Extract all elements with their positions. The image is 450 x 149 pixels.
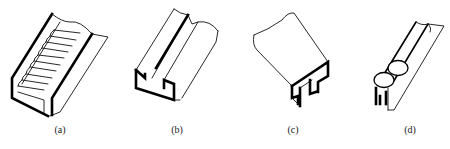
- profile-d-ball-rail: [374, 22, 444, 110]
- profile-c-tslot-block: [253, 13, 328, 106]
- caption-a: (a): [45, 124, 75, 135]
- caption-b: (b): [162, 124, 192, 135]
- ball-upper: [388, 61, 408, 76]
- caption-c: (c): [278, 124, 308, 135]
- ball-lower: [374, 73, 394, 88]
- profile-a-ribbed-trough: [12, 14, 108, 116]
- guide-profiles-figure: (a) (b) (c) (d): [0, 0, 450, 149]
- profile-b-slot-channel: [136, 9, 218, 100]
- caption-d: (d): [395, 124, 425, 135]
